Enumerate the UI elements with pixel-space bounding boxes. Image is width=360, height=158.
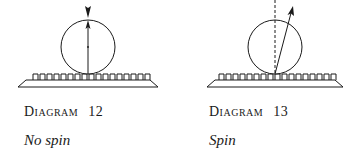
surface-base [207, 80, 343, 87]
caption-number: 13 [273, 104, 288, 119]
incoming-arrowhead-icon [85, 6, 91, 18]
surface-bumps [219, 74, 336, 80]
diagrams-canvas [0, 0, 360, 100]
caption-word: Diagram [24, 104, 78, 119]
diagram-12-subtitle: No spin [24, 132, 70, 149]
caption-number: 12 [88, 104, 103, 119]
surface-bumps [33, 74, 150, 80]
ball-center-dot [87, 46, 89, 48]
surface-base [18, 80, 158, 87]
diagram-13-caption: Diagram 13 [209, 104, 288, 120]
diagram-12-figure [18, 6, 158, 87]
diagram-13-subtitle: Spin [209, 132, 236, 149]
diagram-12-caption: Diagram 12 [24, 104, 103, 120]
diagram-13-figure [207, 0, 343, 87]
caption-word: Diagram [209, 104, 263, 119]
